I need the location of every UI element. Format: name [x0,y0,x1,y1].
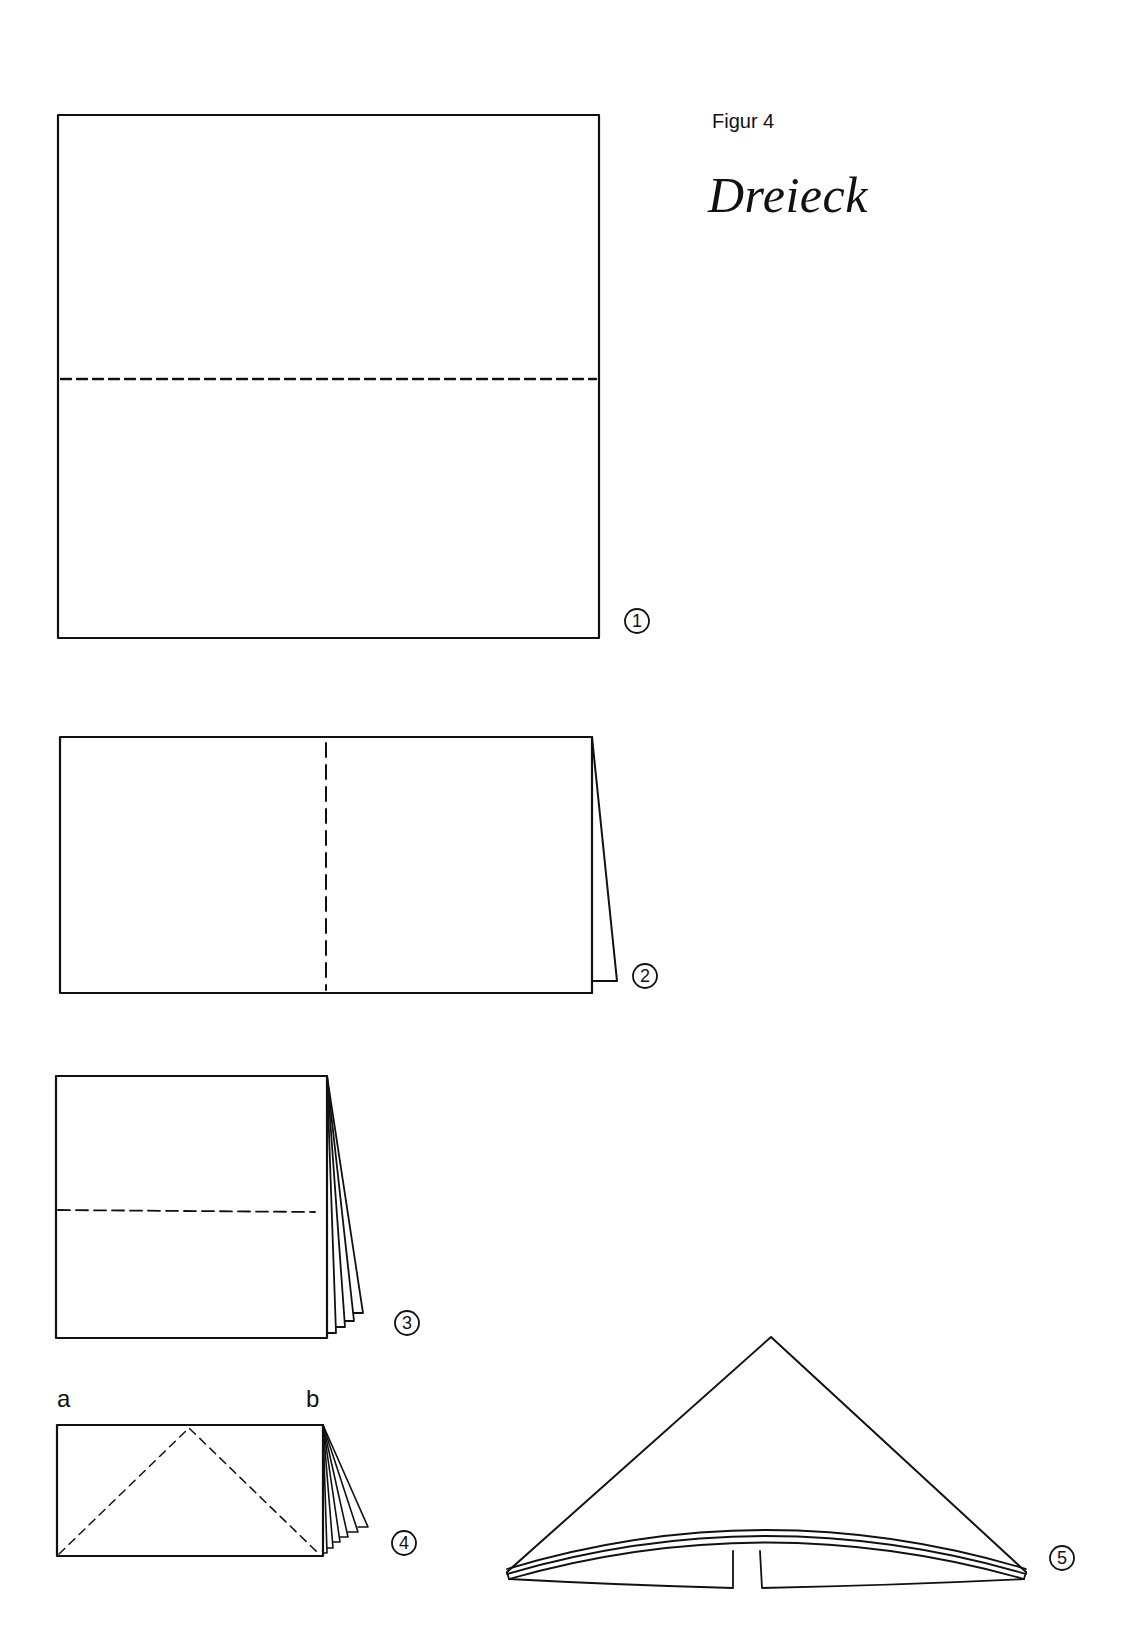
step-4-drawing [57,1425,368,1556]
step-number-2-text: 2 [640,966,650,986]
step-number-1-text: 1 [632,611,642,631]
step-5-drawing [507,1337,1026,1588]
step-2-drawing [60,737,617,993]
step-number-5: 5 [1050,1546,1074,1570]
step-number-5-text: 5 [1057,1548,1067,1568]
step-number-3: 3 [395,1311,419,1335]
step-number-4-text: 4 [399,1533,409,1553]
step-1-drawing [58,115,599,638]
step-number-2: 2 [633,964,657,988]
step-number-1: 1 [625,609,649,633]
step-3-drawing [56,1076,363,1338]
step-number-4: 4 [392,1531,416,1555]
folding-diagram: 1 2 3 4 5 [0,0,1138,1637]
step-number-3-text: 3 [402,1313,412,1333]
